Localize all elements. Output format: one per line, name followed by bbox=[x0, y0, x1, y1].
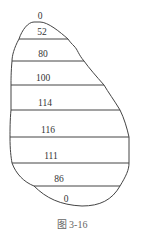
band-label-6: 111 bbox=[44, 151, 58, 161]
band-label-8: 0 bbox=[64, 194, 69, 204]
leaf-outline bbox=[10, 22, 129, 206]
figure-caption: 图 3-16 bbox=[0, 216, 144, 231]
top-label: 0 bbox=[38, 11, 43, 21]
band-label-7: 86 bbox=[54, 174, 64, 184]
band-label-3: 100 bbox=[36, 73, 51, 83]
band-label-1: 52 bbox=[37, 27, 47, 37]
leaf-outline-svg: 0 52 80 100 114 116 111 86 0 bbox=[0, 0, 144, 242]
band-label-4: 114 bbox=[38, 98, 52, 108]
band-label-2: 80 bbox=[38, 49, 48, 59]
band-label-5: 116 bbox=[41, 125, 55, 135]
